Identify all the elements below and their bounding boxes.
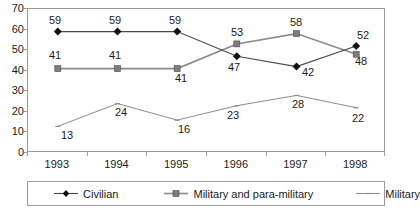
legend-marker-dash-icon [355, 188, 381, 199]
data-label-military-1995: 16 [178, 124, 190, 135]
legend-label-military: Military [385, 188, 420, 200]
x-tick-label-1994: 1994 [87, 158, 147, 171]
data-label-civilian-1997: 42 [302, 67, 314, 78]
series-line-military-para [58, 34, 356, 69]
data-label-military-1996: 23 [227, 110, 239, 121]
data-label-civilian-1996: 47 [228, 62, 240, 73]
data-label-military-1998: 22 [352, 113, 364, 124]
data-label-military-para-1994: 41 [109, 50, 121, 61]
y-tick-label-60: 60 [2, 24, 24, 34]
data-label-military-para-1996: 53 [231, 27, 243, 38]
x-axis: 1993 1994 1995 1996 1997 1998 [27, 152, 385, 174]
data-label-military-1993: 13 [61, 130, 73, 141]
series-layer [28, 9, 386, 153]
x-tick-label-1993: 1993 [27, 158, 87, 171]
y-axis: 70 60 50 40 30 20 10 0 [0, 8, 24, 152]
legend-marker-square-icon [163, 188, 189, 199]
data-label-military-1997: 28 [292, 99, 304, 110]
legend-label-military-para: Military and para-military [193, 188, 313, 200]
y-tick-label-0: 0 [2, 147, 24, 157]
data-label-military-para-1998: 48 [355, 56, 367, 67]
legend-item-military[interactable]: Military [355, 188, 420, 200]
data-label-military-1994: 24 [115, 107, 127, 118]
y-tick-label-10: 10 [2, 126, 24, 136]
series-line-civilian [58, 32, 356, 67]
plot-area: 59 59 59 47 42 52 41 41 41 53 58 48 13 2… [27, 8, 385, 152]
data-label-military-para-1997: 58 [290, 17, 302, 28]
y-tick-label-50: 50 [2, 44, 24, 54]
y-tick-label-40: 40 [2, 65, 24, 75]
legend-item-civilian[interactable]: Civilian [53, 188, 118, 200]
data-label-military-para-1995: 41 [175, 73, 187, 84]
x-tick-label-1995: 1995 [146, 158, 206, 171]
data-label-civilian-1998: 52 [357, 30, 369, 41]
y-tick-label-20: 20 [2, 106, 24, 116]
data-label-civilian-1995: 59 [169, 15, 181, 26]
x-tick-label-1998: 1998 [325, 158, 385, 171]
y-tick-label-70: 70 [2, 3, 24, 13]
data-label-military-para-1993: 41 [49, 50, 61, 61]
x-tick-label-1997: 1997 [266, 158, 326, 171]
series-markers-military [55, 95, 358, 127]
y-tick-label-30: 30 [2, 85, 24, 95]
series-markers-civilian [54, 28, 360, 71]
x-tick-label-1996: 1996 [206, 158, 266, 171]
legend-label-civilian: Civilian [83, 188, 118, 200]
data-label-civilian-1994: 59 [109, 15, 121, 26]
legend-item-military-para[interactable]: Military and para-military [163, 188, 313, 200]
chart-legend: Civilian Military and para-military Mili… [27, 181, 385, 206]
series-line-military [58, 95, 356, 126]
data-label-civilian-1993: 59 [49, 15, 61, 26]
legend-marker-diamond-icon [53, 188, 79, 199]
